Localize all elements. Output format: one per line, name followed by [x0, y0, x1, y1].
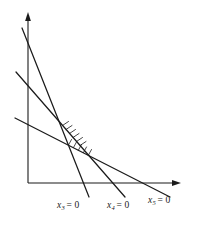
- y-axis-arrow-icon: [25, 12, 31, 21]
- x-axis: [28, 180, 181, 186]
- label-x5-equation: = 0: [156, 195, 171, 205]
- label-x5: x5= 0: [148, 195, 171, 206]
- constraint-lines-figure: x3= 0 x4= 0 x5= 0: [0, 0, 201, 228]
- label-x3: x3= 0: [57, 200, 80, 211]
- x-axis-arrow-icon: [172, 180, 181, 186]
- label-x4-equation: = 0: [115, 200, 130, 210]
- constraint-line-x3: [22, 28, 89, 197]
- label-x4: x4= 0: [107, 200, 130, 211]
- figure-canvas: [0, 0, 201, 228]
- constraint-line-x4: [16, 72, 125, 197]
- constraint-line-x5: [15, 118, 170, 197]
- label-x3-equation: = 0: [65, 200, 80, 210]
- hatch-marks-upper: [63, 122, 87, 146]
